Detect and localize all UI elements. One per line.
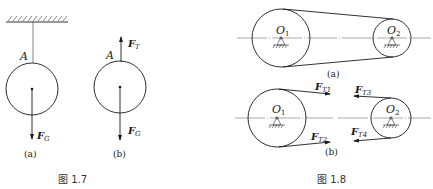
diagram-canvas: A FG (a) A FT FG (b) 图 1.7 (0, 0, 433, 189)
force-t3-label: FT3 (354, 84, 372, 97)
subfig-label-b: (b) (113, 149, 126, 159)
gravity-label: FG (36, 130, 50, 143)
subfig-label-b: (b) (325, 147, 338, 157)
gravity-label: FG (127, 125, 141, 138)
pin-support-icon (384, 37, 400, 48)
point-a-label: A (19, 50, 28, 63)
pin-support-icon (269, 117, 285, 128)
point-a-label: A (105, 49, 114, 62)
figure-1-7b: A FT FG (b) (94, 37, 146, 159)
belt-bottom (283, 57, 393, 67)
figure-1-8b: O1 O2 FT1 FT2 FT3 FT4 (b) (235, 81, 431, 157)
figure-caption: 图 1.8 (317, 174, 346, 185)
ceiling-support (6, 16, 68, 22)
pin-support-icon (273, 37, 289, 48)
pulley-1-label: O1 (276, 24, 290, 38)
subfig-label-a: (a) (24, 149, 36, 159)
pin-support-icon (383, 117, 399, 128)
force-t4-label: FT4 (350, 126, 367, 139)
figure-caption: 图 1.7 (58, 174, 87, 185)
figure-1-8a: O1 O2 (a) (237, 9, 431, 79)
force-t3-arrow (354, 96, 391, 98)
pulley-2-label: O2 (387, 24, 401, 38)
force-t1-label: FT1 (314, 81, 331, 94)
tension-label: FT (127, 38, 141, 51)
figure-1-7: A FG (a) A FT FG (b) 图 1.7 (6, 16, 146, 185)
pulley-1-label: O1 (272, 103, 286, 117)
belt-top (283, 9, 393, 19)
pulley-2-label: O2 (386, 103, 400, 117)
force-t2-label: FT2 (310, 131, 328, 144)
subfig-label-a: (a) (327, 69, 339, 79)
figure-1-7a: A FG (a) (6, 16, 68, 159)
figure-1-8: O1 O2 (a) (235, 9, 431, 185)
